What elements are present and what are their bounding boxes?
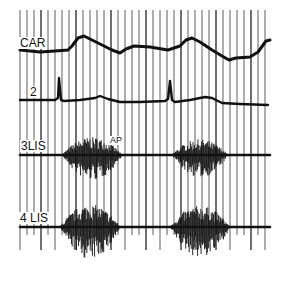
trace-car — [20, 36, 270, 60]
annotation-ap: AP — [110, 136, 122, 145]
label-4lis: 4 LIS — [19, 212, 49, 224]
label-3lis: 3LIS — [20, 140, 47, 152]
label-car: CAR — [19, 37, 46, 49]
label-lead-2: 2 — [29, 86, 38, 98]
traces — [20, 36, 270, 257]
trace-2 — [20, 78, 268, 105]
murmur-burst — [170, 207, 230, 256]
